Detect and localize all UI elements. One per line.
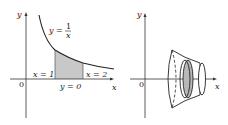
x-axis-label: x <box>112 83 117 92</box>
x-axis-arrow-icon <box>110 78 114 81</box>
shaded-region <box>55 50 83 79</box>
x-axis-label: x <box>215 82 220 91</box>
left-plot: y x 0 y = 1 x x = 1 x = 2 y = 0 <box>10 10 117 118</box>
figure: y x 0 y = 1 x x = 1 x = 2 y = 0 y <box>0 0 228 125</box>
origin-label: 0 <box>139 80 144 89</box>
curve-label-numerator: 1 <box>66 22 71 31</box>
y-axis-arrow-icon <box>144 13 147 17</box>
curve-1-over-x <box>39 15 114 69</box>
right-plot: y x 0 <box>130 10 220 118</box>
y-axis-label: y <box>16 10 22 19</box>
x-axis-arrow-icon <box>213 78 217 81</box>
right-end-ellipse <box>199 63 206 95</box>
origin-label: 0 <box>19 80 24 89</box>
curve-label-denominator: x <box>66 31 71 40</box>
bound-x1-label: x = 1 <box>33 70 54 79</box>
y-axis-arrow-icon <box>25 12 28 16</box>
curve-label: y = <box>48 26 63 35</box>
bound-x2-label: x = 2 <box>86 70 107 79</box>
bound-y0-label: y = 0 <box>59 82 81 91</box>
disk-slice <box>183 60 193 98</box>
y-axis-label: y <box>136 10 142 19</box>
